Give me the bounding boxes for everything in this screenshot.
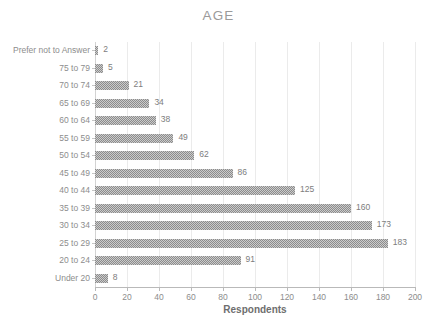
bar-value-label: 38	[161, 114, 170, 124]
x-tick-label-40: 40	[154, 292, 163, 302]
bar	[95, 64, 103, 73]
y-tick-mark	[92, 208, 95, 209]
bar-value-label: 21	[134, 79, 143, 89]
bar-row: 160	[95, 200, 415, 218]
bar-value-label: 8	[113, 272, 118, 282]
y-tick-label: 25 to 29	[59, 238, 90, 248]
y-tick-label: 45 to 49	[59, 168, 90, 178]
y-tick-mark	[92, 50, 95, 51]
bar-value-label: 91	[246, 254, 255, 264]
y-tick-mark	[92, 85, 95, 86]
bar	[95, 81, 129, 90]
x-tick-label-100: 100	[248, 292, 262, 302]
x-tick-label-60: 60	[186, 292, 195, 302]
y-tick-mark	[92, 260, 95, 261]
y-tick-label: Prefer not to Answer	[13, 45, 90, 55]
x-tick-label-180: 180	[376, 292, 390, 302]
y-tick-mark	[92, 103, 95, 104]
bar-row: 62	[95, 147, 415, 165]
bar-row: 21	[95, 77, 415, 95]
bar	[95, 99, 149, 108]
x-tick-mark-0	[95, 287, 96, 291]
bar	[95, 204, 351, 213]
bar	[95, 256, 241, 265]
y-tick-mark	[92, 243, 95, 244]
y-tick-mark	[92, 155, 95, 156]
y-tick-mark	[92, 68, 95, 69]
bar-row: 183	[95, 235, 415, 253]
bar-value-label: 183	[393, 237, 407, 247]
y-tick-mark	[92, 138, 95, 139]
y-tick-label: 65 to 69	[59, 98, 90, 108]
x-tick-mark-120	[287, 287, 288, 291]
y-tick-label: 35 to 39	[59, 203, 90, 213]
gridline-200	[415, 42, 416, 287]
chart-title: AGE	[0, 8, 437, 23]
bar-value-label: 160	[356, 202, 370, 212]
bar-row: 86	[95, 165, 415, 183]
bar	[95, 46, 98, 55]
bar-row: 34	[95, 95, 415, 113]
y-tick-label: 40 to 44	[59, 185, 90, 195]
y-tick-mark	[92, 190, 95, 191]
x-tick-mark-200	[415, 287, 416, 291]
bar-row: 5	[95, 60, 415, 78]
x-axis-title: Respondents	[95, 304, 415, 315]
x-tick-mark-20	[127, 287, 128, 291]
bar-value-label: 34	[154, 97, 163, 107]
bar	[95, 221, 372, 230]
x-tick-label-80: 80	[218, 292, 227, 302]
age-bar-chart: AGE 25213438496286125160173183918 020406…	[0, 0, 437, 323]
y-tick-label: 60 to 64	[59, 115, 90, 125]
y-tick-mark	[92, 173, 95, 174]
bar-row: 49	[95, 130, 415, 148]
bar	[95, 116, 156, 125]
bar-row: 125	[95, 182, 415, 200]
x-tick-label-200: 200	[408, 292, 422, 302]
x-tick-mark-140	[319, 287, 320, 291]
bar	[95, 186, 295, 195]
y-tick-label: 20 to 24	[59, 255, 90, 265]
x-tick-mark-100	[255, 287, 256, 291]
y-tick-mark	[92, 120, 95, 121]
bar	[95, 169, 233, 178]
x-tick-label-120: 120	[280, 292, 294, 302]
y-tick-label: 30 to 34	[59, 220, 90, 230]
x-tick-mark-40	[159, 287, 160, 291]
y-tick-label: Under 20	[55, 273, 90, 283]
x-tick-mark-180	[383, 287, 384, 291]
bar-value-label: 49	[178, 132, 187, 142]
bar-row: 38	[95, 112, 415, 130]
x-tick-label-20: 20	[122, 292, 131, 302]
bar-value-label: 2	[103, 44, 108, 54]
y-tick-label: 55 to 59	[59, 133, 90, 143]
bar	[95, 151, 194, 160]
y-tick-label: 70 to 74	[59, 80, 90, 90]
bar-row: 2	[95, 42, 415, 60]
y-tick-mark	[92, 278, 95, 279]
bar-row: 173	[95, 217, 415, 235]
plot-area: 25213438496286125160173183918	[95, 42, 415, 287]
x-tick-label-140: 140	[312, 292, 326, 302]
bar	[95, 274, 108, 283]
bar	[95, 134, 173, 143]
bar	[95, 239, 388, 248]
y-tick-label: 50 to 54	[59, 150, 90, 160]
bar-value-label: 125	[300, 184, 314, 194]
bar-row: 8	[95, 270, 415, 288]
bar-value-label: 5	[108, 62, 113, 72]
y-tick-mark	[92, 225, 95, 226]
x-tick-mark-80	[223, 287, 224, 291]
bar-value-label: 86	[238, 167, 247, 177]
bar-value-label: 62	[199, 149, 208, 159]
y-tick-label: 75 to 79	[59, 63, 90, 73]
x-tick-mark-160	[351, 287, 352, 291]
bar-value-label: 173	[377, 219, 391, 229]
x-tick-mark-60	[191, 287, 192, 291]
x-tick-label-0: 0	[93, 292, 98, 302]
x-tick-label-160: 160	[344, 292, 358, 302]
bar-row: 91	[95, 252, 415, 270]
